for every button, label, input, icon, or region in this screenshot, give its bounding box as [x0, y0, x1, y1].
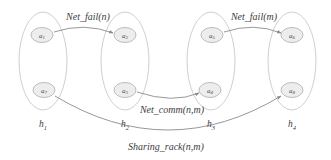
edge-label-edge-net-fail-n: Net_fail(n) [65, 11, 111, 23]
host-group-layer [19, 12, 316, 110]
edge-net-comm-nm [137, 92, 199, 98]
edge-label-edge-sharing-rack-nm: Sharing_rack(n,m) [128, 141, 204, 153]
node-a8: a8 [281, 83, 303, 98]
node-a3: a3 [114, 83, 136, 98]
node-a6: a6 [281, 28, 303, 43]
diagram-canvas: a1a2a5a6a7a3a4a8 Net_fail(n)Net_fail(m)N… [0, 0, 331, 160]
host-label-h3: h3 [207, 119, 216, 131]
edge-label-edge-net-fail-m: Net_fail(m) [230, 11, 278, 23]
host-label-h4: h4 [288, 119, 297, 131]
host-label-layer: h1h2h3h4 [39, 119, 297, 131]
edge-label-edge-net-comm-nm: Net_comm(n,m) [139, 104, 205, 116]
host-label-h2: h2 [121, 119, 130, 131]
node-a1: a1 [31, 28, 53, 43]
edge-label-layer: Net_fail(n)Net_fail(m)Net_comm(n,m)Shari… [65, 11, 278, 153]
host-label-h1: h1 [39, 119, 47, 131]
node-layer: a1a2a5a6a7a3a4a8 [31, 28, 303, 98]
node-a4: a4 [199, 83, 221, 98]
node-a5: a5 [201, 28, 223, 43]
diagram-svg: a1a2a5a6a7a3a4a8 Net_fail(n)Net_fail(m)N… [0, 0, 331, 160]
node-a2: a2 [114, 28, 136, 43]
node-a7: a7 [33, 83, 55, 98]
